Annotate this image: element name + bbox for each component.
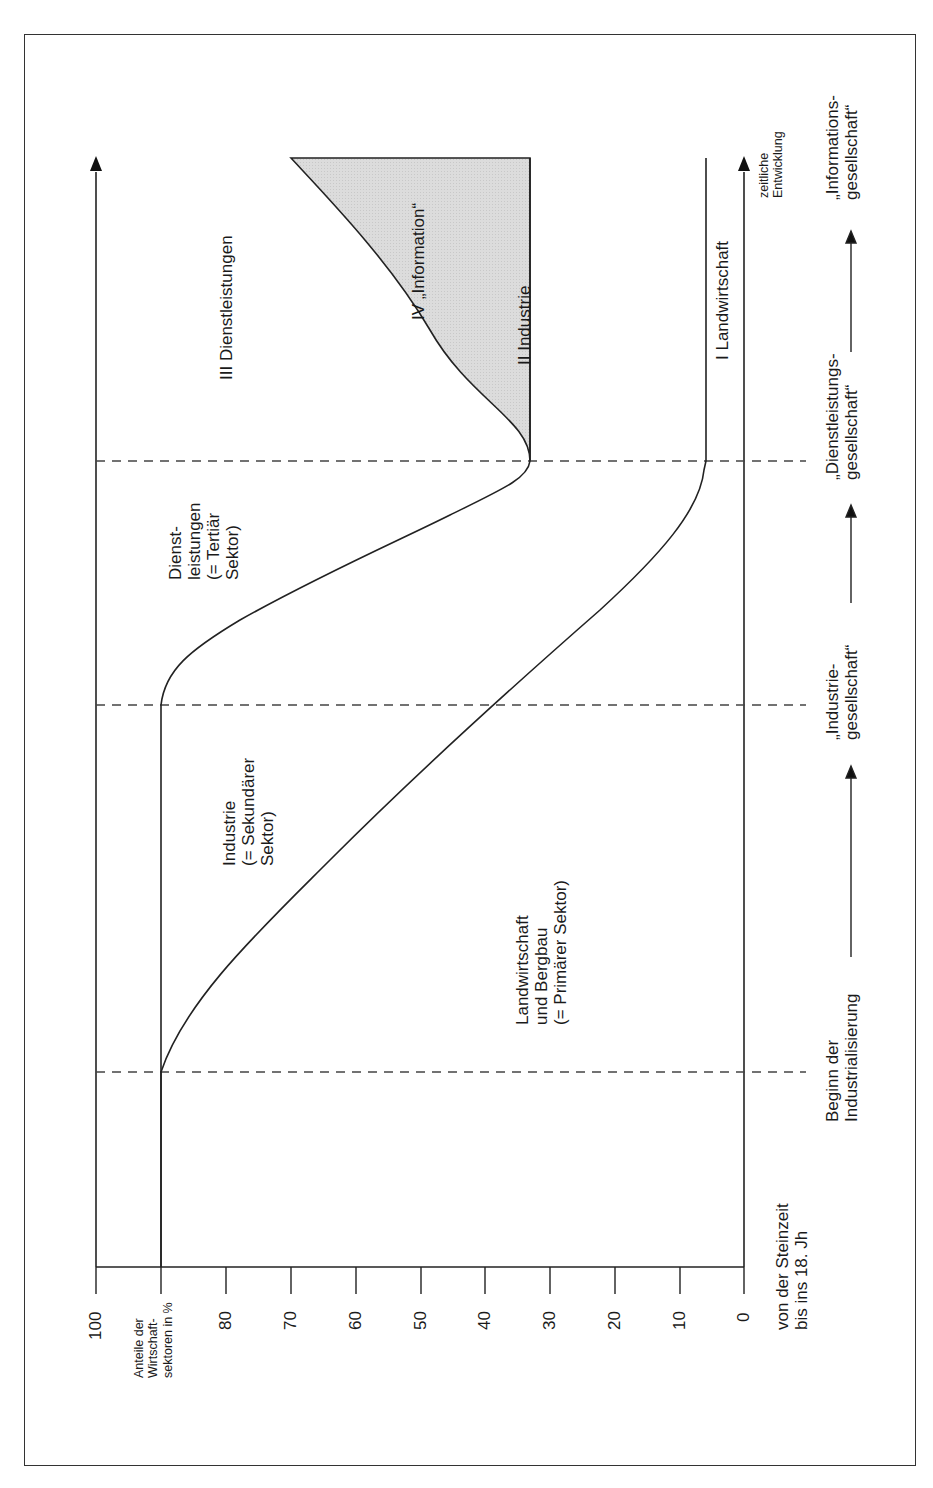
phase-informationsgesellschaft: „Informations-gesellschaft“ xyxy=(823,95,861,200)
tick-70: 70 xyxy=(281,1311,300,1330)
label-ii-industrie: II Industrie xyxy=(515,286,534,365)
tick-10: 10 xyxy=(670,1311,689,1330)
label-secondary-sector: Industrie(= SekundärerSektor) xyxy=(220,758,277,866)
tick-50: 50 xyxy=(411,1311,430,1330)
phase-beginn-industrialisierung: Beginn derIndustrialisierung xyxy=(823,993,861,1122)
time-axis-label: zeitlicheEntwicklung xyxy=(757,131,786,198)
label-i-landwirtschaft: I Landwirtschaft xyxy=(713,241,732,360)
tick-30: 30 xyxy=(540,1311,559,1330)
tick-80: 80 xyxy=(216,1311,235,1330)
phase-steinzeit: von der Steinzeitbis ins 18. Jh xyxy=(773,1203,811,1330)
tick-0: 0 xyxy=(734,1313,753,1322)
arrow-up-icon xyxy=(90,156,102,171)
label-tertiary-sector: Dienst-leistungen(= TertiärSektor) xyxy=(166,502,242,580)
tick-60: 60 xyxy=(346,1311,365,1330)
tick-20: 20 xyxy=(605,1311,624,1330)
arrow-up-icon xyxy=(738,156,750,171)
phase-dienstleistungsgesellschaft: „Dienstleistungs-gesellschaft“ xyxy=(823,353,861,480)
phase-industriegesellschaft: „Industrie-gesellschaft“ xyxy=(823,645,861,740)
label-iii-dienstleistungen: III Dienstleistungen xyxy=(217,235,236,380)
tick-40: 40 xyxy=(475,1311,494,1330)
value-axis-label: Anteile derWirtschaft-sektoren in % xyxy=(132,1302,175,1378)
label-primary-sector: Landwirtschaftund Bergbau(= Primärer Sek… xyxy=(513,880,570,1025)
value-axis-ticks xyxy=(96,1267,744,1294)
label-iv-information: IV „Information“ xyxy=(409,203,428,320)
tick-100: 100 xyxy=(86,1312,105,1340)
